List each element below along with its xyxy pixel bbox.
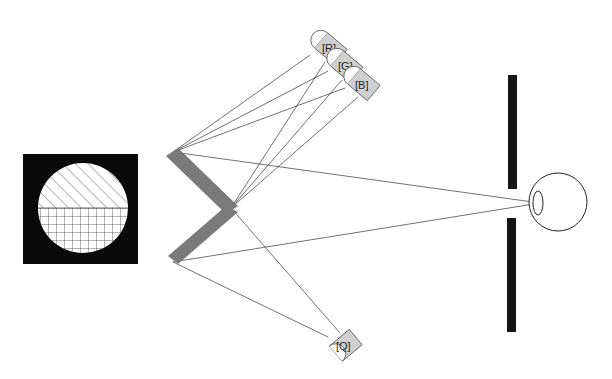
detector-q-label: [Q] bbox=[336, 340, 351, 352]
v-mirror bbox=[166, 148, 238, 264]
target-disc bbox=[23, 154, 138, 264]
eye-icon bbox=[529, 173, 587, 231]
optical-diagram: [R] [G] [B] [Q] bbox=[0, 0, 612, 379]
aperture-screen bbox=[507, 75, 517, 332]
light-rays bbox=[173, 55, 540, 337]
detector-b-label: [B] bbox=[355, 79, 368, 91]
